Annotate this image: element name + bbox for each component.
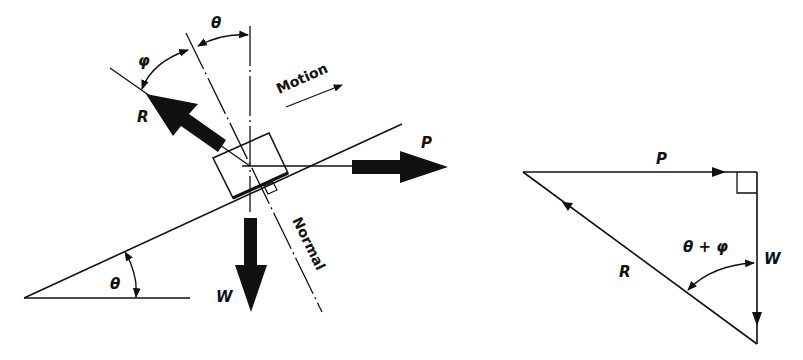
base-theta-label: θ <box>110 275 120 293</box>
triangle-r-label: R <box>619 263 631 281</box>
triangle-w-arrowhead <box>752 312 762 326</box>
base-angle-arc <box>125 252 136 297</box>
triangle-angle-arc <box>688 263 754 290</box>
triangle-w-label: W <box>764 250 782 268</box>
p-force-arrow <box>352 151 448 183</box>
incline-line <box>24 124 402 298</box>
w-label: W <box>216 288 234 306</box>
phi-label: φ <box>138 52 150 70</box>
force-triangle: P W R θ + φ <box>523 150 782 344</box>
top-theta-label: θ <box>211 14 221 32</box>
triangle-p-label: P <box>656 150 667 168</box>
motion-label: Motion <box>274 60 330 97</box>
top-angle-arc <box>198 35 248 46</box>
incline-figure: θ θ φ R P W Motion Normal <box>24 14 448 312</box>
r-label: R <box>137 108 149 126</box>
w-force-arrow <box>235 218 267 312</box>
triangle-right-angle-mark <box>737 172 757 193</box>
r-force-arrow <box>146 94 226 152</box>
p-label: P <box>421 134 432 152</box>
diagram-canvas: θ θ φ R P W Motion Normal <box>0 0 803 360</box>
normal-label: Normal <box>289 214 328 272</box>
triangle-r-arrowhead <box>562 202 573 211</box>
triangle-p-arrowhead <box>712 167 726 177</box>
triangle-angle-label: θ + φ <box>683 238 728 256</box>
triangle-r-side <box>523 172 757 344</box>
